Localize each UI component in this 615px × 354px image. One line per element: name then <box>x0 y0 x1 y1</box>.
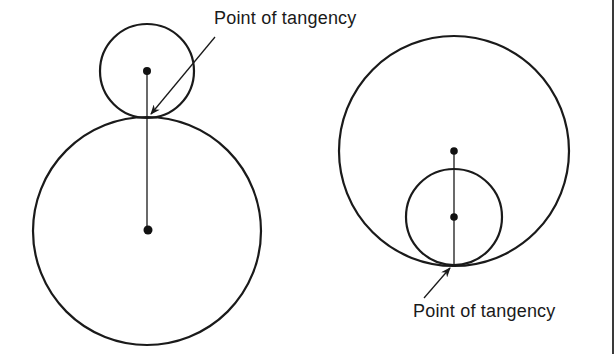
internal-tangency-figure <box>339 36 569 298</box>
external-tangency-figure <box>33 24 261 345</box>
large-center-dot-external <box>144 226 153 235</box>
page-border <box>612 0 614 354</box>
arrow-internal-tangency <box>424 268 450 298</box>
small-center-dot-internal <box>450 213 458 221</box>
tangent-circles-diagram: Point of tangency Point of tangency <box>0 0 615 354</box>
label-point-of-tangency-external: Point of tangency <box>214 8 357 29</box>
label-point-of-tangency-internal: Point of tangency <box>413 301 556 322</box>
large-center-dot-internal <box>450 147 458 155</box>
small-center-dot-external <box>143 67 151 75</box>
